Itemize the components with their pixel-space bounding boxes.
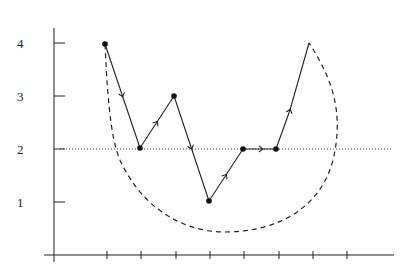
path-markers [102,41,279,204]
point-marker [171,93,177,99]
y-tick-label: 4 [17,36,24,51]
x-axis [44,251,394,259]
point-marker [273,146,279,152]
dashed-envelope [105,43,337,232]
y-tick-label: 3 [17,89,24,104]
point-marker [102,41,108,47]
point-marker [206,198,212,204]
point-marker [137,145,143,151]
y-tick-label: 1 [17,195,24,210]
point-marker [240,146,246,152]
path-diagram: 4 3 2 1 [0,0,408,277]
path-segments [105,43,309,201]
y-tick-label: 2 [17,142,24,157]
y-axis: 4 3 2 1 [17,28,65,262]
